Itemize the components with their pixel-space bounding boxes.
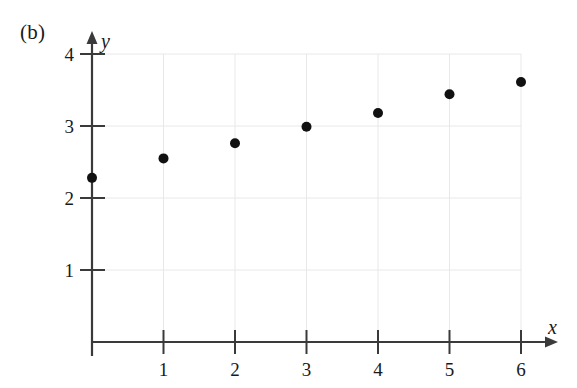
data-point <box>373 108 383 118</box>
data-point <box>230 138 240 148</box>
y-tick-label: 4 <box>65 44 75 65</box>
x-tick-label: 1 <box>159 359 169 380</box>
y-tick-label: 2 <box>65 188 75 209</box>
y-tick-label: 1 <box>65 260 75 281</box>
y-axis-arrow-icon <box>87 31 98 44</box>
data-point <box>445 89 455 99</box>
plot-canvas: 123456 1234 x y <box>0 0 577 388</box>
x-axis-label: x <box>547 316 557 338</box>
data-point <box>87 173 97 183</box>
data-point <box>516 77 526 87</box>
x-tick-label: 2 <box>230 359 240 380</box>
x-axis-arrow-icon <box>545 337 558 348</box>
scatter-plot-figure: (b) 123456 1234 x y <box>0 0 577 388</box>
x-tick-label: 6 <box>516 359 526 380</box>
data-point <box>159 153 169 163</box>
x-tick-label: 5 <box>445 359 455 380</box>
y-axis-label: y <box>99 30 110 53</box>
y-axis-tick-labels: 1234 <box>65 44 75 281</box>
x-tick-label: 3 <box>302 359 312 380</box>
x-axis-tick-labels: 123456 <box>159 359 526 380</box>
x-tick-label: 4 <box>373 359 383 380</box>
y-tick-label: 3 <box>65 116 75 137</box>
data-point <box>302 122 312 132</box>
